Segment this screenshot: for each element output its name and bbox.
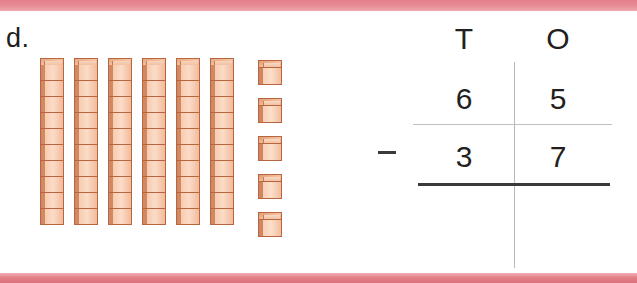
rod-unit-segment <box>176 145 200 161</box>
rod-unit-segment <box>108 193 132 209</box>
column-header-ones: O <box>538 24 578 54</box>
rod-unit-face <box>109 161 131 176</box>
tens-rod <box>142 58 166 227</box>
rod-unit-face <box>177 177 199 192</box>
rod-unit-face <box>143 113 165 128</box>
unit-cube <box>258 136 282 161</box>
rod-unit-segment <box>74 65 98 81</box>
unit-cube <box>258 60 282 85</box>
rod-unit-segment <box>176 193 200 209</box>
rod-unit-segment <box>108 161 132 177</box>
rod-unit-face <box>41 209 63 224</box>
rod-unit-segment <box>142 81 166 97</box>
subtrahend-ones-digit: 7 <box>538 142 578 172</box>
rod-unit-segment <box>40 193 64 209</box>
rod-unit-face <box>177 81 199 96</box>
rod-unit-segment <box>210 113 234 129</box>
rod-unit-segment <box>210 193 234 209</box>
cube-front-face <box>258 143 282 161</box>
rod-unit-face <box>41 81 63 96</box>
rod-unit-segment <box>176 209 200 225</box>
rod-unit-face <box>143 81 165 96</box>
rod-top-face <box>210 58 234 67</box>
rod-unit-face <box>143 161 165 176</box>
rod-top-face <box>40 58 64 67</box>
rod-unit-face <box>177 97 199 112</box>
answer-rule <box>418 183 610 186</box>
rod-unit-segment <box>74 161 98 177</box>
rod-unit-segment <box>108 65 132 81</box>
rod-unit-face <box>75 193 97 208</box>
tens-rod <box>210 58 234 227</box>
rod-unit-segment <box>210 161 234 177</box>
rod-unit-segment <box>176 161 200 177</box>
rod-unit-face <box>143 129 165 144</box>
rod-unit-segment <box>210 209 234 225</box>
rod-top-face <box>74 58 98 67</box>
rod-unit-face <box>41 129 63 144</box>
rod-unit-face <box>75 209 97 224</box>
rod-unit-segment <box>40 145 64 161</box>
rod-unit-face <box>211 113 233 128</box>
column-divider-line <box>514 62 515 268</box>
rod-unit-face <box>75 177 97 192</box>
rod-unit-segment <box>74 113 98 129</box>
cube-front-face <box>258 181 282 199</box>
rod-unit-segment <box>74 129 98 145</box>
minuend-tens-digit: 6 <box>444 84 484 114</box>
rod-unit-face <box>143 97 165 112</box>
rod-unit-segment <box>40 129 64 145</box>
rod-unit-face <box>177 145 199 160</box>
rod-unit-segment <box>210 129 234 145</box>
rod-unit-face <box>211 193 233 208</box>
rod-unit-face <box>211 81 233 96</box>
rod-unit-segment <box>210 145 234 161</box>
rod-unit-face <box>109 145 131 160</box>
rod-top-face <box>108 58 132 67</box>
rod-unit-segment <box>108 97 132 113</box>
rod-unit-face <box>211 65 233 80</box>
rod-unit-face <box>177 161 199 176</box>
rod-unit-segment <box>108 81 132 97</box>
rod-unit-face <box>41 97 63 112</box>
rod-unit-face <box>75 81 97 96</box>
rod-unit-face <box>211 161 233 176</box>
rod-unit-segment <box>176 129 200 145</box>
rod-unit-face <box>109 65 131 80</box>
tens-rod <box>176 58 200 227</box>
rod-unit-segment <box>108 129 132 145</box>
rod-unit-face <box>177 129 199 144</box>
rod-unit-face <box>143 193 165 208</box>
rod-unit-segment <box>74 193 98 209</box>
tens-rod <box>40 58 64 227</box>
tens-rod <box>74 58 98 227</box>
rod-unit-face <box>177 65 199 80</box>
rod-unit-segment <box>40 97 64 113</box>
base-ten-blocks-group <box>0 0 330 283</box>
rod-unit-face <box>109 177 131 192</box>
unit-cube <box>258 174 282 199</box>
rod-unit-face <box>41 193 63 208</box>
row-separator-rule <box>413 124 612 125</box>
rod-unit-face <box>75 129 97 144</box>
rod-unit-face <box>211 177 233 192</box>
rod-unit-segment <box>74 209 98 225</box>
cube-front-face <box>258 105 282 123</box>
rod-unit-segment <box>142 129 166 145</box>
tens-rod <box>108 58 132 227</box>
rod-unit-segment <box>40 177 64 193</box>
rod-top-face <box>142 58 166 67</box>
rod-unit-face <box>41 113 63 128</box>
rod-unit-segment <box>210 65 234 81</box>
rod-unit-segment <box>142 177 166 193</box>
minuend-ones-digit: 5 <box>538 84 578 114</box>
rod-unit-face <box>143 209 165 224</box>
rod-unit-segment <box>74 81 98 97</box>
rod-unit-segment <box>74 97 98 113</box>
rod-unit-face <box>41 177 63 192</box>
rod-unit-segment <box>40 161 64 177</box>
cube-front-face <box>258 219 282 237</box>
worksheet-page: d. T O 6 5 3 7 <box>0 0 637 283</box>
subtrahend-tens-digit: 3 <box>444 142 484 172</box>
rod-unit-face <box>177 209 199 224</box>
